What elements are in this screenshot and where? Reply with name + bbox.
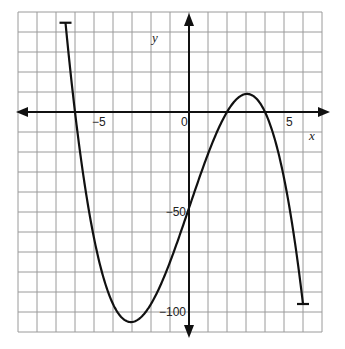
grid — [18, 12, 322, 332]
tick-labels: −505−50−100 — [92, 115, 293, 319]
y-axis-label: y — [150, 30, 158, 45]
endpoint-caps — [60, 23, 310, 304]
x-tick-label: −5 — [92, 115, 106, 129]
x-axis-label: x — [308, 128, 315, 143]
cubic-function-graph: −505−50−100 x y — [0, 0, 345, 349]
y-tick-label: −100 — [159, 305, 186, 319]
y-tick-label: −50 — [166, 205, 187, 219]
x-tick-label: 0 — [181, 115, 188, 129]
x-axis-arrow-right-icon — [318, 107, 330, 117]
x-tick-label: 5 — [286, 115, 293, 129]
y-axis-arrow-up-icon — [184, 13, 194, 26]
